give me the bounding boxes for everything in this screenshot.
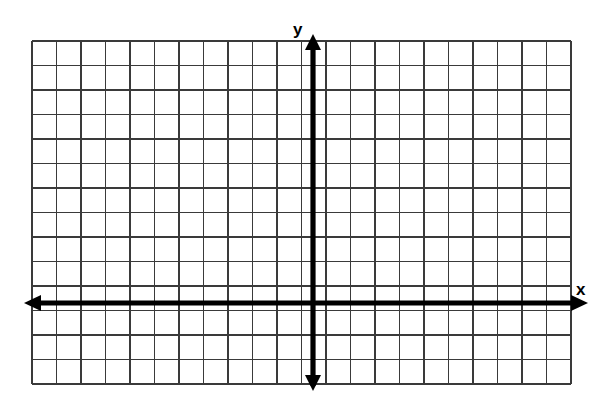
coordinate-plane-graphic [0,0,610,403]
coordinate-grid-figure: y x [0,0,610,403]
y-axis-label: y [293,21,302,38]
x-axis-label: x [576,281,585,298]
figure-background [0,0,610,403]
